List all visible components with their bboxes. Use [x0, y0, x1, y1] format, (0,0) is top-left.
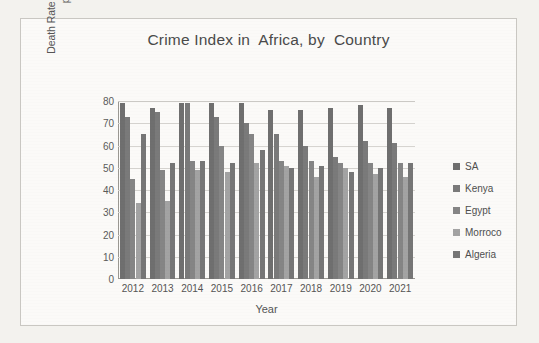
y-tick-label: 40 — [103, 185, 114, 196]
legend-swatch-icon — [453, 229, 460, 236]
bar-group-2017 — [268, 101, 294, 279]
chart-title: Crime Index in Africa, by Country — [21, 31, 516, 49]
bar-algeria-2017[interactable] — [289, 168, 294, 279]
legend-swatch-icon — [453, 251, 460, 258]
bar-algeria-2020[interactable] — [378, 168, 383, 279]
bar-group-2016 — [239, 101, 265, 279]
legend-label: Egypt — [465, 205, 491, 216]
legend-label: Morroco — [465, 227, 502, 238]
legend-label: Kenya — [465, 183, 493, 194]
y-axis-title-line1: Death Rate Per Crime in 100000 — [45, 0, 59, 79]
bar-algeria-2021[interactable] — [408, 163, 413, 279]
legend-item-egypt[interactable]: Egypt — [453, 199, 539, 221]
legend-item-algeria[interactable]: Algeria — [453, 243, 539, 265]
legend-label: SA — [465, 161, 478, 172]
x-tick-label-2013: 2013 — [151, 283, 173, 294]
bar-algeria-2013[interactable] — [170, 163, 175, 279]
legend-item-sa[interactable]: SA — [453, 155, 539, 177]
x-tick-label-2020: 2020 — [359, 283, 381, 294]
bar-group-2014 — [179, 101, 205, 279]
x-axis-title: Year — [118, 303, 415, 315]
x-tick-label-2014: 2014 — [181, 283, 203, 294]
x-tick-label-2021: 2021 — [389, 283, 411, 294]
bar-algeria-2018[interactable] — [319, 166, 324, 279]
y-tick-label: 10 — [103, 251, 114, 262]
x-tick-label-2016: 2016 — [241, 283, 263, 294]
y-tick-label: 60 — [103, 140, 114, 151]
legend-item-kenya[interactable]: Kenya — [453, 177, 539, 199]
y-tick-label: 80 — [103, 96, 114, 107]
bar-group-2018 — [298, 101, 324, 279]
y-tick-label: 0 — [108, 274, 114, 285]
chart-legend: SAKenyaEgyptMorrocoAlgeria — [453, 155, 539, 265]
bar-algeria-2019[interactable] — [349, 172, 354, 279]
y-tick-label: 30 — [103, 207, 114, 218]
bar-algeria-2014[interactable] — [200, 161, 205, 279]
bar-group-2012 — [120, 101, 146, 279]
x-tick-label-2017: 2017 — [270, 283, 292, 294]
bar-group-2020 — [358, 101, 384, 279]
bar-group-2021 — [387, 101, 413, 279]
chart-frame: Crime Index in Africa, by Country Death … — [20, 18, 517, 326]
y-tick-label: 70 — [103, 118, 114, 129]
x-tick-label-2019: 2019 — [330, 283, 352, 294]
legend-swatch-icon — [453, 185, 460, 192]
bar-group-2015 — [209, 101, 235, 279]
bar-group-2019 — [328, 101, 354, 279]
bar-algeria-2016[interactable] — [260, 150, 265, 279]
x-axis-tick-labels: 2012201320142015201620172018201920202021 — [118, 283, 415, 297]
y-tick-label: 20 — [103, 229, 114, 240]
scanned-page-background: Crime Index in Africa, by Country Death … — [0, 0, 539, 343]
y-axis-title-line2: population — [59, 0, 73, 79]
x-tick-label-2012: 2012 — [122, 283, 144, 294]
bar-algeria-2012[interactable] — [141, 134, 146, 279]
bar-group-2013 — [150, 101, 176, 279]
y-axis-tick-labels: 80706050403020100 — [83, 101, 114, 279]
x-tick-label-2015: 2015 — [211, 283, 233, 294]
bar-algeria-2015[interactable] — [230, 163, 235, 279]
x-tick-label-2018: 2018 — [300, 283, 322, 294]
legend-swatch-icon — [453, 207, 460, 214]
plot-area — [118, 101, 415, 279]
legend-swatch-icon — [453, 163, 460, 170]
legend-label: Algeria — [465, 249, 496, 260]
legend-item-morroco[interactable]: Morroco — [453, 221, 539, 243]
y-tick-label: 50 — [103, 162, 114, 173]
